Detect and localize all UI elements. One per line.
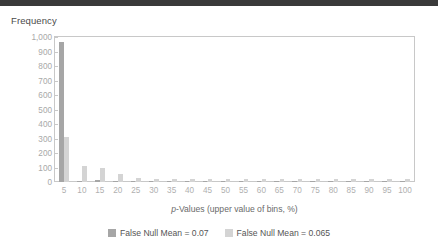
x-tick-label-100: 100 <box>398 186 412 195</box>
bar-series1-bin-20 <box>118 174 123 182</box>
y-tick-mark-900 <box>54 52 58 53</box>
bar-series1-bin-50 <box>226 179 231 182</box>
x-axis-title: p-Values (upper value of bins, %) <box>54 204 415 214</box>
bar-series1-bin-100 <box>405 179 410 182</box>
x-tick-label-20: 20 <box>113 186 122 195</box>
x-tick-label-55: 55 <box>239 186 248 195</box>
bar-series1-bin-60 <box>262 179 267 182</box>
y-tick-label-100: 100 <box>6 163 52 172</box>
legend-item-0[interactable]: False Null Mean = 0.07 <box>108 228 209 238</box>
bar-series0-bin-5 <box>59 42 64 182</box>
bar-series0-bin-85 <box>346 181 351 182</box>
bar-series1-bin-85 <box>351 179 356 182</box>
bar-series1-bin-65 <box>280 179 285 182</box>
y-tick-mark-500 <box>54 110 58 111</box>
bar-series0-bin-35 <box>167 181 172 182</box>
y-tick-mark-300 <box>54 139 58 140</box>
y-tick-mark-1000 <box>54 37 58 38</box>
x-tick-label-50: 50 <box>221 186 230 195</box>
y-tick-label-700: 700 <box>6 76 52 85</box>
bar-series0-bin-70 <box>292 181 297 182</box>
bar-series1-bin-80 <box>334 179 339 182</box>
x-tick-label-90: 90 <box>365 186 374 195</box>
x-tick-label-30: 30 <box>149 186 158 195</box>
x-tick-label-15: 15 <box>95 186 104 195</box>
bar-series0-bin-80 <box>328 181 333 182</box>
bar-series1-bin-70 <box>298 179 303 182</box>
bar-series1-bin-15 <box>100 168 105 183</box>
legend-label-1: False Null Mean = 0.065 <box>237 228 330 238</box>
x-tick-label-70: 70 <box>293 186 302 195</box>
plot-area <box>55 37 414 182</box>
x-tick-label-10: 10 <box>77 186 86 195</box>
x-axis-title-rest: -Values (upper value of bins, %) <box>176 204 298 214</box>
x-tick-label-75: 75 <box>311 186 320 195</box>
y-tick-mark-100 <box>54 168 58 169</box>
x-tick-label-85: 85 <box>347 186 356 195</box>
legend-swatch-0 <box>108 229 116 237</box>
y-tick-mark-600 <box>54 95 58 96</box>
bar-series0-bin-15 <box>95 180 100 182</box>
y-tick-label-200: 200 <box>6 149 52 158</box>
chart-legend: False Null Mean = 0.07False Null Mean = … <box>0 228 438 238</box>
chart-figure: Frequency 01002003004005006007008009001,… <box>0 6 438 252</box>
x-tick-label-25: 25 <box>131 186 140 195</box>
bar-series0-bin-20 <box>113 181 118 182</box>
y-tick-label-500: 500 <box>6 105 52 114</box>
bar-series0-bin-60 <box>257 181 262 182</box>
y-tick-label-400: 400 <box>6 120 52 129</box>
x-tick-label-45: 45 <box>203 186 212 195</box>
y-tick-label-300: 300 <box>6 134 52 143</box>
bar-series1-bin-95 <box>387 179 392 182</box>
legend-swatch-1 <box>225 229 233 237</box>
bar-series0-bin-30 <box>149 181 154 182</box>
bar-series0-bin-10 <box>77 181 82 182</box>
bar-series1-bin-55 <box>244 179 249 182</box>
legend-item-1[interactable]: False Null Mean = 0.065 <box>225 228 330 238</box>
y-tick-label-800: 800 <box>6 62 52 71</box>
x-tick-label-95: 95 <box>383 186 392 195</box>
y-tick-mark-200 <box>54 153 58 154</box>
bar-series0-bin-65 <box>274 181 279 182</box>
x-tick-label-35: 35 <box>167 186 176 195</box>
bar-series1-bin-75 <box>316 179 321 182</box>
x-tick-label-80: 80 <box>329 186 338 195</box>
bar-series1-bin-30 <box>154 179 159 182</box>
bar-series0-bin-45 <box>203 181 208 182</box>
bar-series1-bin-40 <box>190 179 195 182</box>
bar-series1-bin-35 <box>172 179 177 182</box>
bar-series0-bin-75 <box>310 181 315 182</box>
bar-series0-bin-25 <box>131 181 136 182</box>
y-tick-mark-700 <box>54 81 58 82</box>
x-tick-label-40: 40 <box>185 186 194 195</box>
bar-series0-bin-40 <box>185 181 190 182</box>
y-tick-label-900: 900 <box>6 47 52 56</box>
bar-series0-bin-55 <box>239 181 244 182</box>
bar-series0-bin-50 <box>221 181 226 182</box>
y-tick-label-1000: 1,000 <box>6 33 52 42</box>
bar-series0-bin-95 <box>382 181 387 182</box>
x-tick-label-65: 65 <box>275 186 284 195</box>
bar-series0-bin-90 <box>364 181 369 182</box>
legend-label-0: False Null Mean = 0.07 <box>120 228 209 238</box>
y-tick-mark-800 <box>54 66 58 67</box>
x-tick-label-5: 5 <box>62 186 67 195</box>
bar-series0-bin-100 <box>400 181 405 182</box>
bar-series1-bin-25 <box>136 178 141 182</box>
y-axis-tick-labels: 01002003004005006007008009001,000 <box>0 6 52 252</box>
bar-series1-bin-5 <box>64 137 69 182</box>
bar-series1-bin-10 <box>82 166 87 182</box>
y-tick-mark-400 <box>54 124 58 125</box>
y-tick-label-600: 600 <box>6 91 52 100</box>
bar-series1-bin-45 <box>208 179 213 182</box>
y-tick-label-0: 0 <box>6 178 52 187</box>
x-tick-label-60: 60 <box>257 186 266 195</box>
bar-series1-bin-90 <box>369 179 374 182</box>
